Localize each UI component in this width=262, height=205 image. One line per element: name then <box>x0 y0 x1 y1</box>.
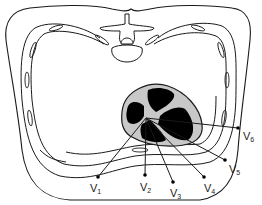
label-v6: V6 <box>243 130 254 143</box>
thorax-cross-section-diagram: V1 V2 V3 V4 V5 V6 <box>0 0 262 205</box>
electrode-dot-v3 <box>171 180 175 184</box>
electrode-dot-v2 <box>143 173 147 177</box>
electrode-dot-v1 <box>96 175 100 179</box>
electrode-dot-v5 <box>223 158 227 162</box>
label-v5: V5 <box>229 163 240 176</box>
electrode-dot-v6 <box>236 126 240 130</box>
electrode-dot-v4 <box>202 175 206 179</box>
